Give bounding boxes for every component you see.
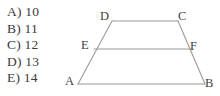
vertex-label-b: B xyxy=(205,77,213,90)
segment-AD xyxy=(78,21,112,84)
trapezoid-svg xyxy=(0,0,220,96)
vertex-label-d: D xyxy=(100,10,109,23)
question-figure-screenshot: A) 10 B) 11 C) 12 D) 13 E) 14 D C E F A … xyxy=(0,0,220,96)
trapezoid-diagram: D C E F A B xyxy=(0,0,220,96)
vertex-label-e: E xyxy=(81,39,89,52)
vertex-label-f: F xyxy=(190,40,197,53)
vertex-label-c: C xyxy=(178,10,186,23)
vertex-label-a: A xyxy=(65,75,74,88)
trapezoid-segments xyxy=(78,21,205,84)
